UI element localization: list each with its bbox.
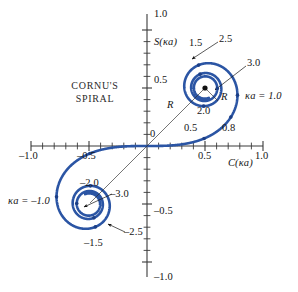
kappa-label-upper: κa = 1.0	[245, 91, 282, 102]
marker-label-neg2p0: –2.0	[80, 178, 99, 189]
x-tick-label-1: 1.0	[255, 151, 268, 162]
marker-label-neg3p0: –3.0	[110, 189, 129, 200]
marker-label-neg1p5: –1.5	[84, 238, 103, 249]
parameter-marker	[92, 216, 96, 220]
marker-label-0p5: 0.5	[184, 123, 197, 134]
leader-3p0	[215, 66, 246, 90]
figure-title-line1: CORNU'S	[56, 80, 134, 93]
parameter-marker	[55, 195, 59, 199]
spiral-centers	[202, 85, 207, 90]
x-tick-label-0p5: 0.5	[198, 151, 211, 162]
y-tick-label-1: 1.0	[154, 9, 167, 20]
x-tick-label-neg0p5: –0.5	[77, 151, 96, 162]
y-tick-label-neg1: –1.0	[154, 272, 173, 283]
parameter-marker	[215, 87, 219, 91]
y-tick-label-0p5: 0.5	[154, 75, 167, 86]
radius-label-outer: R	[167, 100, 174, 111]
parameter-marker	[236, 93, 240, 97]
cornu-spiral-plot	[0, 0, 298, 292]
marker-label-2p0: 2.0	[197, 106, 210, 117]
kappa-label-lower: κa = –1.0	[8, 196, 50, 207]
y-axis-label: S(κa)	[154, 37, 177, 48]
figure-title-line2: SPIRAL	[56, 93, 134, 106]
parameter-marker	[202, 137, 206, 141]
y-tick-label-neg0p5: –0.5	[154, 206, 173, 217]
figure-title: CORNU'S SPIRAL	[56, 80, 134, 105]
cornu-spiral-figure: CORNU'S SPIRAL C(κa) S(κa) 0 –1.0 –0.5 0…	[0, 0, 298, 292]
spiral-center-upper	[202, 85, 207, 90]
parameter-marker	[197, 63, 201, 67]
radius-label-inner: R	[221, 92, 228, 103]
marker-label-0p8: 0.8	[222, 123, 235, 134]
x-tick-label-neg1: –1.0	[19, 151, 38, 162]
radius-line-outer	[147, 88, 205, 146]
marker-label-1p5: 1.5	[189, 38, 202, 49]
leader-neg2p5	[108, 224, 125, 232]
marker-label-2p5: 2.5	[219, 34, 232, 45]
marker-label-3p0: 3.0	[247, 58, 260, 69]
parameter-marker	[94, 225, 98, 229]
parameter-marker	[198, 72, 202, 76]
parameter-marker	[75, 202, 79, 206]
x-axis-label: C(κa)	[228, 158, 253, 169]
parameter-marker	[229, 115, 233, 119]
origin-label: 0	[150, 129, 155, 140]
marker-label-neg2p5: –2.5	[124, 227, 143, 238]
